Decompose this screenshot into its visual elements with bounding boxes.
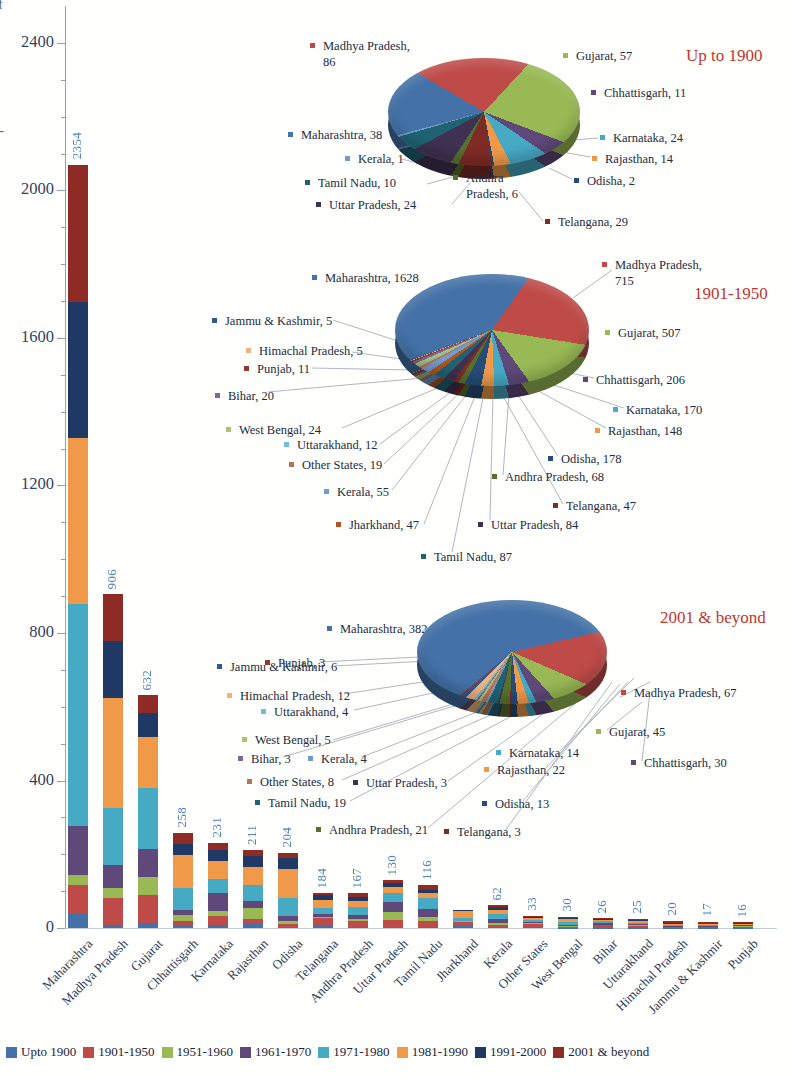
pie-label-telangana: Telangana, 47 bbox=[553, 498, 666, 514]
pie-label-bullet bbox=[621, 690, 626, 695]
pie-label-bullet bbox=[215, 393, 220, 398]
pie-label-bullet bbox=[553, 503, 558, 508]
pie-label-text: Andhra Pradesh, 6 bbox=[466, 171, 518, 201]
pie-label-uttarakhand: Uttarakhand, 12 bbox=[284, 437, 407, 453]
pie-label-text: Uttarakhand, 12 bbox=[297, 438, 378, 452]
pie-label-bullet bbox=[261, 709, 266, 714]
pie-label-bullet bbox=[246, 348, 251, 353]
pie-label-chhattisgarh: Chhattisgarh, 30 bbox=[631, 755, 774, 771]
pie-up-to-1900 bbox=[388, 58, 580, 166]
pie-label-bullet bbox=[316, 202, 321, 207]
pie-label-text: Odisha, 2 bbox=[587, 174, 635, 188]
pie-label-bullet bbox=[238, 756, 243, 761]
pie-label-bullet bbox=[592, 156, 597, 161]
pie-label-odisha: Odisha, 178 bbox=[548, 451, 651, 467]
pie-label-tamil-nadu: Tamil Nadu, 10 bbox=[305, 175, 418, 191]
pie-label-text: Maharashtra, 1628 bbox=[325, 271, 419, 285]
pie-label-bullet bbox=[284, 442, 289, 447]
pie-label-kerala: Kerala, 4 bbox=[308, 751, 401, 767]
pie-label-text: Andhra Pradesh, 68 bbox=[505, 470, 604, 484]
pie-label-madhya-pradesh: Madhya Pradesh, 67 bbox=[621, 685, 744, 701]
pie-label-text: Telangana, 29 bbox=[558, 215, 628, 229]
pie-label-bullet bbox=[602, 262, 607, 267]
pie-label-bullet bbox=[484, 767, 489, 772]
pie-label-text: Gujarat, 507 bbox=[618, 326, 680, 340]
pie-label-text: Karnataka, 24 bbox=[613, 131, 683, 145]
pie-label-bullet bbox=[583, 377, 588, 382]
pie-label-chhattisgarh: Chhattisgarh, 206 bbox=[583, 372, 721, 388]
pie-label-west-bengal: West Bengal, 5 bbox=[242, 732, 365, 748]
pie-label-text: Karnataka, 170 bbox=[626, 403, 702, 417]
pie-label-kerala: Kerala, 55 bbox=[324, 484, 417, 500]
pie-label-text: Other States, 8 bbox=[260, 775, 334, 789]
pie-label-karnataka: Karnataka, 14 bbox=[496, 745, 614, 761]
pie-label-uttar-pradesh: Uttar Pradesh, 24 bbox=[316, 197, 444, 213]
pie-label-bullet bbox=[289, 462, 294, 467]
pie-label-text: West Bengal, 5 bbox=[255, 733, 331, 747]
pie-label-text: Himachal Pradesh, 5 bbox=[259, 344, 363, 358]
pie-label-bullet bbox=[227, 693, 232, 698]
pie-label-telangana: Telangana, 29 bbox=[545, 214, 653, 230]
pie-label-rajasthan: Rajasthan, 22 bbox=[484, 762, 602, 778]
pie-label-text: Gujarat, 57 bbox=[576, 49, 632, 63]
pie-label-andhra-pradesh: Andhra Pradesh, 6 bbox=[453, 170, 520, 202]
pie-label-bullet bbox=[478, 522, 483, 527]
pie-label-karnataka: Karnataka, 24 bbox=[600, 130, 708, 146]
pie-label-text: Rajasthan, 148 bbox=[608, 424, 682, 438]
pie-label-bullet bbox=[217, 664, 222, 669]
pie-label-maharashtra: Maharashtra, 1628 bbox=[312, 270, 460, 286]
pie-label-bullet bbox=[444, 829, 449, 834]
pie-label-tamil-nadu: Tamil Nadu, 87 bbox=[421, 549, 544, 565]
pie-label-telangana: Telangana, 3 bbox=[444, 824, 562, 840]
pie-label-text: Maharashtra, 382 bbox=[340, 622, 427, 636]
pie-label-bullet bbox=[453, 175, 458, 180]
pie-label-odisha: Odisha, 2 bbox=[574, 173, 662, 189]
pie-label-bullet bbox=[308, 756, 313, 761]
pie-label-text: Maharashtra, 38 bbox=[301, 128, 382, 142]
pie-label-text: Uttar Pradesh, 84 bbox=[491, 518, 578, 532]
pie-label-bullet bbox=[421, 554, 426, 559]
pie-label-bullet bbox=[482, 801, 487, 806]
pie-label-text: West Bengal, 24 bbox=[239, 423, 321, 437]
pie-label-text: Kerala, 4 bbox=[321, 752, 367, 766]
pie-label-text: Madhya Pradesh, 715 bbox=[615, 258, 702, 288]
pie-label-text: Other States, 19 bbox=[302, 458, 382, 472]
pie-label-bullet bbox=[595, 428, 600, 433]
pie-label-text: Jammu & Kashmir, 5 bbox=[225, 314, 332, 328]
pie-label-text: Tamil Nadu, 87 bbox=[434, 550, 512, 564]
pie-label-maharashtra: Maharashtra, 38 bbox=[288, 127, 416, 143]
pie-label-madhya-pradesh: Madhya Pradesh, 715 bbox=[602, 257, 715, 289]
pie-1901-1950 bbox=[395, 274, 589, 386]
pie-label-rajasthan: Rajasthan, 148 bbox=[595, 423, 713, 439]
pie-label-tamil-nadu: Tamil Nadu, 19 bbox=[255, 795, 378, 811]
pie-label-bullet bbox=[600, 135, 605, 140]
pie-label-text: Rajasthan, 14 bbox=[605, 152, 673, 166]
pie-label-madhya-pradesh: Madhya Pradesh, 86 bbox=[310, 38, 418, 70]
pie-label-bullet bbox=[548, 456, 553, 461]
pie-label-bullet bbox=[312, 275, 317, 280]
pie-label-bullet bbox=[247, 779, 252, 784]
pie-label-text: Telangana, 3 bbox=[457, 825, 521, 839]
pie-label-text: Punjab, 11 bbox=[257, 362, 310, 376]
pie-label-west-bengal: West Bengal, 24 bbox=[226, 422, 354, 438]
pie-label-chhattisgarh: Chhattisgarh, 11 bbox=[591, 85, 719, 101]
pie-label-text: Himachal Pradesh, 12 bbox=[240, 689, 350, 703]
pie-label-bullet bbox=[255, 800, 260, 805]
pie-label-himachal-pradesh: Himachal Pradesh, 5 bbox=[246, 343, 379, 359]
dams-by-state-and-period-figure: f - 24002000160012008004000 235490663225… bbox=[0, 0, 791, 1077]
pie-label-punjab: Punjab, 11 bbox=[244, 361, 337, 377]
pie-label-text: Odisha, 178 bbox=[561, 452, 621, 466]
pie-label-text: Uttar Pradesh, 3 bbox=[366, 776, 447, 790]
pie-label-bullet bbox=[327, 626, 332, 631]
pie-label-bullet bbox=[596, 729, 601, 734]
pie-label-bullet bbox=[244, 366, 249, 371]
pie-label-text: Uttar Pradesh, 24 bbox=[329, 198, 416, 212]
pie-label-bullet bbox=[226, 427, 231, 432]
pie-label-text: Tamil Nadu, 10 bbox=[318, 176, 396, 190]
pie-label-gujarat: Gujarat, 507 bbox=[605, 325, 713, 341]
pie-label-jammu-and-kashmir: Jammu & Kashmir, 5 bbox=[212, 313, 345, 329]
pie-label-bullet bbox=[242, 737, 247, 742]
pie-label-bullet bbox=[212, 318, 217, 323]
pie-label-jharkhand: Jharkhand, 47 bbox=[336, 517, 449, 533]
pie-label-bullet bbox=[336, 522, 341, 527]
